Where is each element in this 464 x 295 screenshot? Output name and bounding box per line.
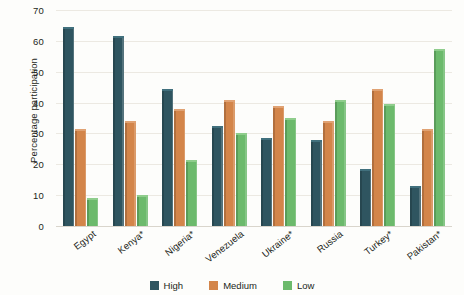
bar-top-bevel — [174, 109, 185, 111]
bar-left-bevel — [224, 100, 226, 227]
bar-groups — [56, 10, 452, 226]
bar-top-bevel — [63, 27, 74, 29]
bar-left-bevel — [422, 129, 424, 226]
bar-low — [87, 198, 98, 226]
bar-right-bevel — [394, 104, 396, 226]
bar-right-bevel — [419, 186, 421, 226]
bar-medium — [273, 106, 284, 226]
bar-top-bevel — [285, 118, 296, 120]
bar-top-bevel — [273, 106, 284, 108]
y-tick-40: 40 — [33, 97, 44, 108]
bar-right-bevel — [344, 100, 346, 227]
bar-left-bevel — [311, 140, 313, 226]
bar-top-bevel — [113, 36, 124, 38]
bar-top-bevel — [125, 121, 136, 123]
y-tick-50: 50 — [33, 66, 44, 77]
bar-left-bevel — [125, 121, 127, 226]
bar-top-bevel — [434, 49, 445, 51]
x-tick-label: Ukraine* — [259, 228, 295, 260]
bar-top-bevel — [360, 169, 371, 171]
bar-left-bevel — [75, 129, 77, 226]
legend-swatch-high — [150, 281, 159, 290]
bar-high — [311, 140, 322, 226]
bar-low — [186, 160, 197, 226]
bar-right-bevel — [184, 109, 186, 226]
bar-left-bevel — [372, 89, 374, 226]
bar-top-bevel — [311, 140, 322, 142]
bar-left-bevel — [384, 104, 386, 226]
bar-medium — [75, 129, 86, 226]
bar-top-bevel — [162, 89, 173, 91]
bar-right-bevel — [370, 169, 372, 226]
bar-top-bevel — [75, 129, 86, 131]
y-axis-tick-labels: 706050403020100 — [0, 10, 52, 226]
bar-left-bevel — [174, 109, 176, 226]
bar-medium — [174, 109, 185, 226]
bar-right-bevel — [196, 160, 198, 226]
legend-label-high: High — [164, 280, 184, 291]
bar-right-bevel — [97, 198, 99, 226]
legend-label-medium: Medium — [223, 280, 257, 291]
bar-left-bevel — [273, 106, 275, 226]
bar-low — [335, 100, 346, 227]
bar-top-bevel — [236, 133, 247, 135]
bar-medium — [422, 129, 433, 226]
y-tick-30: 30 — [33, 128, 44, 139]
bar-low — [285, 118, 296, 226]
legend-item-low: Low — [283, 280, 314, 291]
bar-left-bevel — [360, 169, 362, 226]
bar-left-bevel — [212, 126, 214, 226]
bar-left-bevel — [335, 100, 337, 227]
bar-top-bevel — [372, 89, 383, 91]
bar-left-bevel — [323, 121, 325, 226]
bar-high — [162, 89, 173, 226]
bar-medium — [323, 121, 334, 226]
plot-area — [56, 10, 452, 226]
bar-top-bevel — [410, 186, 421, 188]
chart-legend: HighMediumLow — [0, 280, 464, 291]
y-tick-20: 20 — [33, 159, 44, 170]
x-tick-label: Russia — [315, 228, 345, 255]
legend-item-medium: Medium — [209, 280, 257, 291]
x-tick-label: Egypt — [71, 228, 97, 252]
bar-low — [384, 104, 395, 226]
bar-right-bevel — [146, 195, 148, 226]
bar-group — [304, 10, 354, 226]
bar-high — [410, 186, 421, 226]
bar-medium — [125, 121, 136, 226]
bar-left-bevel — [285, 118, 287, 226]
bar-low — [137, 195, 148, 226]
bar-top-bevel — [224, 100, 235, 102]
bar-right-bevel — [443, 49, 445, 226]
legend-item-high: High — [150, 280, 184, 291]
bar-top-bevel — [87, 198, 98, 200]
bar-right-bevel — [73, 27, 75, 226]
bar-group — [106, 10, 156, 226]
bar-group — [353, 10, 403, 226]
y-tick-0: 0 — [39, 221, 44, 232]
bar-top-bevel — [422, 129, 433, 131]
bar-right-bevel — [295, 118, 297, 226]
bar-top-bevel — [137, 195, 148, 197]
bar-group — [155, 10, 205, 226]
x-tick-label: Pakistan* — [405, 228, 444, 262]
bar-right-bevel — [283, 106, 285, 226]
bar-top-bevel — [384, 104, 395, 106]
x-tick-label: Venezuela — [204, 228, 246, 265]
bar-high — [212, 126, 223, 226]
bar-left-bevel — [186, 160, 188, 226]
bar-top-bevel — [261, 138, 272, 140]
bar-group — [205, 10, 255, 226]
bar-right-bevel — [431, 129, 433, 226]
bar-right-bevel — [382, 89, 384, 226]
bar-left-bevel — [236, 133, 238, 226]
bar-group — [403, 10, 453, 226]
x-axis-tick-labels: EgyptKenya*Nigeria*VenezuelaUkraine*Russ… — [56, 228, 452, 272]
bar-chart: Percentage participation 706050403020100… — [0, 0, 464, 295]
bar-top-bevel — [335, 100, 346, 102]
bar-right-bevel — [320, 140, 322, 226]
bar-right-bevel — [245, 133, 247, 226]
legend-swatch-medium — [209, 281, 218, 290]
bar-right-bevel — [85, 129, 87, 226]
bar-low — [434, 49, 445, 226]
